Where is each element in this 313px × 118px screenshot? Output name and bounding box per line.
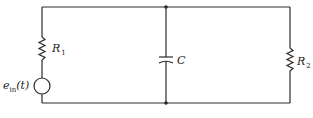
voltage-source-icon	[34, 78, 50, 94]
source-label: ein(t)	[3, 79, 29, 94]
capacitor-label: C	[177, 54, 186, 67]
resistor-r2-icon	[287, 48, 293, 71]
circuit-diagram: R1 ein(t) C R2	[0, 0, 313, 118]
r1-label: R1	[51, 42, 66, 57]
r2-label: R2	[296, 55, 311, 70]
right-branch	[287, 7, 293, 103]
middle-branch	[159, 5, 173, 105]
left-branch	[34, 7, 50, 103]
resistor-r1-icon	[39, 37, 45, 60]
